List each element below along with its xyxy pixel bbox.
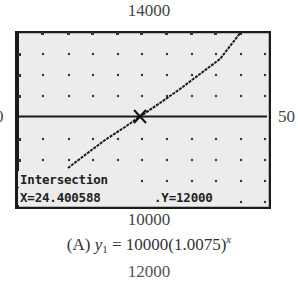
caption-base: 10000(1.0075) [126,235,227,254]
graph-canvas: Intersection X=24.400588 .Y=12000 [15,31,271,209]
calculator-screen: Intersection X=24.400588 .Y=12000 [15,31,271,209]
ymax-label: 14000 [0,2,298,19]
caption-equals: = [112,235,122,254]
next-label-cut: 12000 [0,262,298,281]
xmin-label: 0 [0,108,4,125]
xmax-label: 50 [278,108,295,125]
caption-prefix: (A) [67,235,91,254]
x-readout: X=24.400588 [20,190,101,205]
equation-caption: (A) y1 = 10000(1.0075)x [0,233,298,255]
y-readout: .Y=12000 [154,190,213,205]
caption-sub: 1 [102,243,108,255]
intersection-label: Intersection [20,172,108,187]
ymin-label: 10000 [0,211,298,228]
caption-exponent: x [226,233,231,245]
